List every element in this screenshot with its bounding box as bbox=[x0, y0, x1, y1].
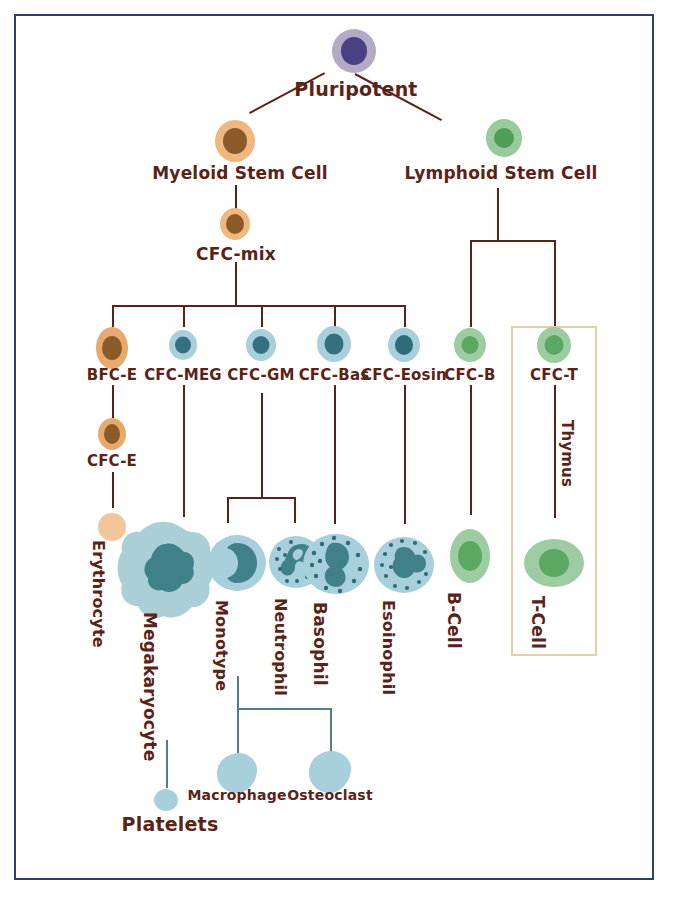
bus-drop-cfcgm bbox=[261, 305, 263, 327]
edge-cfce-erythrocyte bbox=[112, 472, 114, 508]
edge-cfcgm-neutrophil bbox=[294, 497, 296, 523]
edge-cfcb-bcell bbox=[470, 385, 472, 515]
bus-drop-cfcbas bbox=[334, 305, 336, 327]
node-label-cfc-b: CFC-B bbox=[444, 366, 495, 384]
node-label-basophil: Basophil bbox=[310, 602, 330, 686]
cell-cfc-b[interactable] bbox=[453, 328, 487, 362]
monotype-split-bus bbox=[237, 708, 332, 710]
node-label-megakaryocyte: Megakaryocyte bbox=[140, 612, 160, 761]
basophil-shape bbox=[302, 533, 370, 595]
cell-nucleus bbox=[223, 128, 247, 154]
edge-cfcbas-basophil bbox=[334, 385, 336, 524]
node-label-osteoclast: Osteoclast bbox=[287, 787, 373, 803]
cell-nucleus bbox=[462, 336, 479, 354]
edge-cfcgm-down bbox=[261, 393, 263, 498]
node-label-cfc-bas: CFC-Bas bbox=[299, 366, 370, 384]
node-label-t-cell: T-Cell bbox=[528, 596, 548, 649]
node-label-cfc-eosin: CFC-Eosin bbox=[361, 366, 447, 384]
node-label-bfc-e: BFC-E bbox=[87, 366, 138, 384]
edge-cfcmeg-megakaryocyte bbox=[183, 385, 185, 517]
edge-cfceosin-esoinophil bbox=[404, 385, 406, 524]
cell-cfc-bas[interactable] bbox=[316, 326, 352, 362]
cell-nucleus bbox=[539, 549, 569, 577]
cell-myeloid-stem[interactable] bbox=[214, 120, 256, 162]
cell-lymphoid-stem[interactable] bbox=[484, 118, 524, 158]
node-label-monotype: Monotype bbox=[212, 600, 231, 691]
megakaryocyte-shape bbox=[114, 518, 218, 622]
cell-cfc-mix[interactable] bbox=[219, 208, 251, 240]
platelet-shape bbox=[153, 788, 179, 812]
node-label-cfc-e: CFC-E bbox=[87, 452, 137, 470]
cell-nucleus bbox=[341, 37, 367, 65]
cell-basophil[interactable] bbox=[302, 533, 370, 595]
cell-nucleus bbox=[104, 424, 120, 444]
cell-b-cell[interactable] bbox=[448, 528, 492, 584]
bus-drop-bfce bbox=[112, 305, 114, 327]
cell-esoinophil[interactable] bbox=[373, 536, 435, 594]
cell-cfc-t[interactable] bbox=[536, 327, 572, 363]
cell-nucleus bbox=[253, 336, 270, 354]
lymphoid-bus bbox=[470, 240, 556, 242]
edge-cfcmix-bus bbox=[235, 262, 237, 306]
edge-myeloid-cfcmix bbox=[235, 185, 237, 209]
node-label-lymphoid-stem: Lymphoid Stem Cell bbox=[404, 163, 597, 183]
cell-nucleus bbox=[458, 541, 482, 571]
bus-drop-cfcmeg bbox=[183, 305, 185, 327]
node-label-cfc-t: CFC-T bbox=[530, 366, 578, 384]
cell-cfc-gm[interactable] bbox=[245, 329, 277, 361]
myeloid-bus bbox=[112, 305, 404, 307]
edge-monotype-osteoclast bbox=[330, 708, 332, 753]
cell-megakaryocyte[interactable] bbox=[114, 518, 218, 622]
cell-nucleus bbox=[102, 336, 122, 360]
cell-t-cell[interactable] bbox=[523, 538, 585, 588]
edge-monotype-macrophage bbox=[237, 708, 239, 753]
cell-nucleus bbox=[545, 335, 564, 355]
cell-nucleus bbox=[395, 335, 413, 355]
cfcgm-split-bus bbox=[227, 497, 295, 499]
cell-cfc-e[interactable] bbox=[97, 418, 127, 450]
cell-nucleus bbox=[175, 337, 191, 354]
bus-drop-cfceos bbox=[404, 305, 406, 327]
node-label-macrophage: Macrophage bbox=[187, 787, 286, 803]
edge-cfcgm-monotype bbox=[227, 497, 229, 523]
bus-drop-cfct bbox=[554, 240, 556, 327]
edge-bfce-cfce bbox=[112, 385, 114, 418]
eosinophil-shape bbox=[373, 536, 435, 594]
node-label-b-cell: B-Cell bbox=[444, 592, 464, 649]
node-label-esoinophil: Esoinophil bbox=[379, 600, 398, 695]
cell-cfc-eosin[interactable] bbox=[387, 328, 421, 362]
monocyte-shape bbox=[207, 534, 267, 592]
node-label-erythrocyte: Erythrocyte bbox=[89, 540, 108, 648]
cell-platelets[interactable] bbox=[153, 788, 179, 812]
node-label-cfc-meg: CFC-MEG bbox=[144, 366, 222, 384]
node-label-pluripotent: Pluripotent bbox=[294, 78, 417, 100]
cell-cfc-meg[interactable] bbox=[168, 330, 198, 360]
cell-monotype[interactable] bbox=[207, 534, 267, 592]
bus-drop-cfcb bbox=[470, 240, 472, 327]
cell-bfc-e[interactable] bbox=[94, 327, 130, 369]
edge-megakaryocyte-platelets bbox=[166, 740, 168, 788]
cell-nucleus bbox=[226, 214, 244, 234]
node-label-cfc-mix: CFC-mix bbox=[196, 244, 276, 264]
node-label-myeloid-stem: Myeloid Stem Cell bbox=[152, 163, 328, 183]
node-label-neutrophil: Neutrophil bbox=[271, 598, 290, 696]
cell-pluripotent[interactable] bbox=[331, 28, 377, 74]
edge-lymphoid-bus bbox=[497, 188, 499, 241]
cell-nucleus bbox=[325, 334, 344, 355]
node-label-platelets: Platelets bbox=[122, 813, 219, 835]
edge-monotype-down bbox=[237, 676, 239, 710]
cell-nucleus bbox=[494, 128, 514, 148]
thymus-label: Thymus bbox=[558, 420, 576, 487]
node-label-cfc-gm: CFC-GM bbox=[227, 366, 294, 384]
